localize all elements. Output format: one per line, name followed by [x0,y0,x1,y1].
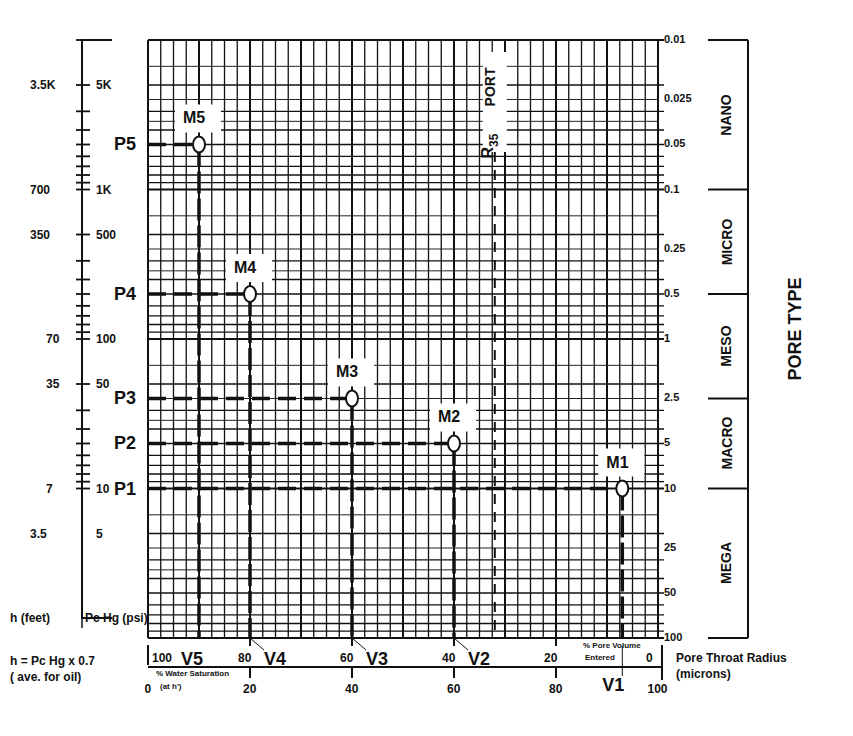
pv-tick-label: 40 [442,652,455,664]
h-tick-label: 350 [30,229,50,241]
point-label-m4: M4 [234,260,256,276]
pv-tick-label: 0 [646,652,653,664]
plot-grid [148,40,664,638]
radius-tick-label: 5 [664,437,670,448]
radius-tick-label: 0.5 [664,288,679,299]
radius-tick-label: 0.25 [664,243,685,254]
h-tick-label: 700 [30,184,50,196]
pv-axis-title-2: Entered [585,654,615,662]
pc-tick-label: 5K [96,79,111,91]
pv-axis-title: % Pore Volume [583,642,641,650]
sw-tick-label: 0 [145,683,152,695]
data-point-m4 [244,286,256,302]
radius-axis-subtitle: (microns) [676,668,731,680]
h-tick-label: 3.5 [30,528,47,540]
pore-type-macro: MACRO [719,416,733,471]
radius-tick-label: 10 [664,483,676,494]
pv-tick-label: 100 [152,652,172,664]
sw-tick-label: 60 [447,683,460,695]
point-label-m3: M3 [336,364,358,380]
pv-tick-label: 20 [544,652,557,664]
volume-label-v4: V4 [264,650,286,668]
data-point-m3 [346,390,358,406]
pore-type-meso: MESO [719,324,733,368]
point-label-m1: M1 [606,455,628,471]
pore-type-mega: MEGA [719,541,733,585]
data-point-m2 [448,435,460,451]
radius-tick-label: 0.1 [664,184,679,195]
point-label-m2: M2 [438,409,460,425]
pore-type-micro: MICRO [719,214,733,269]
h-tick-label: 3.5K [30,79,55,91]
volume-label-v5: V5 [181,650,203,668]
pc-axis-title: Pc Hg (psi) [85,612,148,624]
radius-tick-label: 0.025 [664,93,692,104]
radius-tick-label: 25 [664,542,676,553]
h-axis-title: h (feet) [10,612,50,624]
radius-tick-label: 0.01 [664,34,685,45]
sw-tick-label: 100 [648,683,668,695]
sw-tick-label: 20 [243,683,256,695]
pore-type-nano: NANO [719,93,733,137]
pressure-label-p2: P2 [114,434,136,452]
data-point-m5 [193,136,205,152]
radius-tick-label: 50 [664,587,676,598]
sw-tick-label: 40 [345,683,358,695]
pv-tick-label: 60 [340,652,353,664]
point-label-m5: M5 [183,110,205,126]
r35-port-label: PORT [483,62,497,112]
pressure-label-p3: P3 [114,389,136,407]
volume-label-v1: V1 [602,676,624,694]
volume-label-v2: V2 [468,650,490,668]
pressure-label-p4: P4 [114,285,136,303]
volume-label-v3: V3 [366,650,388,668]
pressure-label-p1: P1 [114,480,136,498]
radius-axis-title: Pore Throat Radius [676,652,787,664]
data-point-m1 [616,481,628,497]
plot-axes [76,40,748,680]
radius-tick-label: 100 [664,632,682,643]
h-tick-label: 70 [46,333,59,345]
pc-tick-label: 10 [96,483,109,495]
pc-tick-label: 5 [96,528,103,540]
plot-overlays [148,52,644,638]
radius-tick-label: 1 [664,333,670,344]
sw-axis-title: % Water Saturation [156,670,229,678]
h-tick-label: 35 [46,378,59,390]
radius-tick-label: 2.5 [664,392,679,403]
pore-type-title: PORE TYPE [786,264,804,394]
pressure-label-p5: P5 [114,135,136,153]
sw-tick-label: 80 [549,683,562,695]
pc-tick-label: 500 [96,229,116,241]
sw-axis-subtitle: (at h') [160,683,181,691]
r35-label: R35 [480,109,499,159]
r35-subscript: 35 [486,134,500,147]
h-tick-label: 7 [46,483,53,495]
radius-tick-label: 0.05 [664,138,685,149]
pv-tick-label: 80 [238,652,251,664]
pc-tick-label: 100 [96,333,116,345]
pc-tick-label: 1K [96,184,111,196]
pc-tick-label: 50 [96,378,109,390]
formula-note: ( ave. for oil) [10,671,81,683]
formula-label: h = Pc Hg x 0.7 [10,655,95,667]
